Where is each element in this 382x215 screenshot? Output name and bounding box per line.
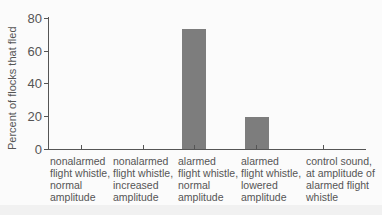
y-tick-label-40: 40 [16,77,42,90]
bar-alarmed-normal [182,29,206,149]
x-tick-3 [194,145,195,149]
chart-panel: Percent of flocks that fled 0 20 40 60 8… [0,0,382,205]
y-tick-60 [44,51,48,52]
y-axis-line [48,17,49,149]
x-axis-line [48,149,366,150]
x-tick-1 [81,145,82,149]
x-tick-5 [323,145,324,149]
x-label-alarmed-lowered: alarmed flight whistle, lowered amplitud… [241,155,309,203]
y-tick-label-80: 80 [16,12,42,25]
y-tick-20 [44,116,48,117]
y-tick-label-20: 20 [16,110,42,123]
y-tick-40 [44,83,48,84]
bar-alarmed-lowered [245,117,269,149]
x-label-alarmed-normal: alarmed flight whistle, normal amplitude [178,155,246,203]
x-label-control-sound: control sound, at amplitude of alarmed f… [306,155,380,203]
x-label-nonalarmed-increased: nonalarmed flight whistle, increased amp… [113,155,181,203]
x-tick-2 [143,145,144,149]
y-tick-80 [44,18,48,19]
x-tick-4 [256,145,257,149]
y-tick-label-0: 0 [16,143,42,156]
y-tick-0 [44,149,48,150]
x-label-nonalarmed-normal: nonalarmed flight whistle, normal amplit… [50,155,118,203]
y-tick-label-60: 60 [16,45,42,58]
